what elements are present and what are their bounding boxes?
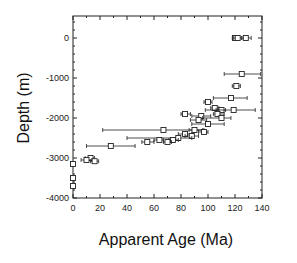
y-tick-label: -1000 xyxy=(46,73,69,83)
data-point xyxy=(142,140,154,145)
square-marker xyxy=(71,176,76,181)
y-tick-label: -4000 xyxy=(46,193,69,203)
square-marker xyxy=(71,162,76,167)
x-tick-label: 100 xyxy=(200,203,215,213)
x-tick-label: 0 xyxy=(70,203,75,213)
x-tick-label: 40 xyxy=(122,203,132,213)
square-marker xyxy=(206,100,211,105)
square-marker xyxy=(243,36,248,41)
square-marker xyxy=(108,144,113,149)
data-point xyxy=(71,176,76,181)
y-tick-label: -2000 xyxy=(46,113,69,123)
x-tick-label: 120 xyxy=(227,203,242,213)
square-marker xyxy=(145,140,150,145)
y-tick-label: -3000 xyxy=(46,153,69,163)
data-point xyxy=(242,36,251,41)
data-point xyxy=(232,84,240,89)
data-point xyxy=(234,36,242,41)
data-point xyxy=(163,140,171,145)
y-axis-title: Depth (m) xyxy=(15,72,32,143)
data-point xyxy=(181,112,190,117)
square-marker xyxy=(84,158,89,163)
square-marker xyxy=(206,122,211,127)
data-point xyxy=(204,100,212,105)
square-marker xyxy=(219,116,224,121)
square-marker xyxy=(228,96,233,101)
y-tick-label: 0 xyxy=(64,33,69,43)
data-points xyxy=(71,36,261,189)
square-marker xyxy=(196,118,201,123)
plot-axes: 0204060801001201400-1000-2000-3000-4000 xyxy=(46,16,270,213)
data-point xyxy=(224,72,260,77)
square-marker xyxy=(165,140,170,145)
plot-frame xyxy=(73,16,262,198)
square-marker xyxy=(161,128,166,133)
square-marker xyxy=(235,36,240,41)
data-point xyxy=(213,96,247,101)
scatter-chart: 0204060801001201400-1000-2000-3000-4000 … xyxy=(0,0,297,263)
data-point xyxy=(71,162,76,167)
data-point xyxy=(87,144,136,149)
x-tick-label: 60 xyxy=(149,203,159,213)
x-tick-label: 20 xyxy=(95,203,105,213)
square-marker xyxy=(192,128,197,133)
square-marker xyxy=(183,112,188,117)
x-tick-label: 140 xyxy=(254,203,269,213)
data-point xyxy=(91,159,99,164)
square-marker xyxy=(234,84,239,89)
square-marker xyxy=(92,159,97,164)
square-marker xyxy=(157,138,162,143)
x-axis-title: Apparent Age (Ma) xyxy=(99,231,233,248)
square-marker xyxy=(201,130,206,135)
x-tick-label: 80 xyxy=(176,203,186,213)
data-point xyxy=(71,184,76,189)
square-marker xyxy=(231,108,236,113)
square-marker xyxy=(71,184,76,189)
square-marker xyxy=(239,72,244,77)
